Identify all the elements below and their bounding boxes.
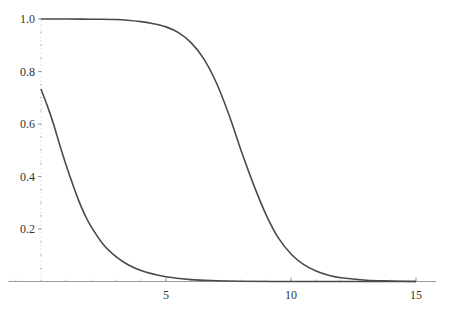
- y-tick-label: 0.4: [20, 170, 35, 184]
- x-tick-label: 10: [285, 288, 297, 302]
- x-tick-label: 5: [163, 288, 169, 302]
- line-chart: 0.20.40.60.81.0 51015: [0, 0, 450, 312]
- y-axis: 0.20.40.60.81.0: [20, 12, 42, 282]
- y-tick-label: 0.6: [20, 117, 35, 131]
- plot-area: [41, 19, 416, 282]
- y-tick-label: 0.8: [20, 65, 35, 79]
- x-tick-label: 15: [410, 288, 422, 302]
- y-tick-label: 0.2: [20, 222, 35, 236]
- y-tick-label: 1.0: [20, 12, 35, 26]
- series-line-lower: [41, 89, 416, 281]
- series-line-upper: [41, 19, 416, 282]
